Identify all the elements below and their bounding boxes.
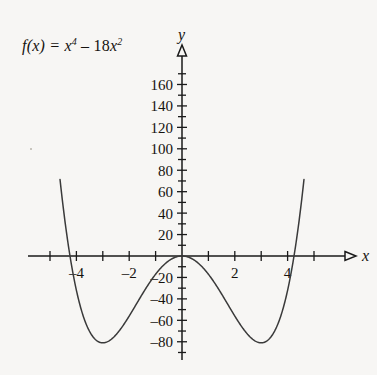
y-tick-label: 160: [151, 77, 174, 93]
equation-operator: –: [77, 37, 94, 54]
function-equation-label: f(x) = x4 – 18x2: [22, 36, 122, 55]
equation-term2-coefficient: 18: [94, 37, 110, 54]
x-axis-group: x: [28, 247, 369, 264]
y-tick-label: 40: [158, 206, 173, 222]
y-tick-label: 80: [158, 163, 173, 179]
y-axis-name-label: y: [176, 26, 186, 44]
x-tick-label: 2: [231, 265, 239, 281]
y-tick-label: 100: [151, 141, 174, 157]
x-tick-label: –2: [121, 265, 137, 281]
y-tick-label: 140: [151, 98, 174, 114]
equation-term2-exponent: 2: [117, 36, 122, 47]
y-axis-arrowhead: [178, 45, 187, 56]
y-axis-tick-labels: –80–60–40–2020406080100120140160: [150, 77, 174, 350]
equation-term1-base: x: [64, 37, 71, 54]
scan-speck: [30, 148, 32, 150]
y-tick-label: 20: [158, 227, 173, 243]
y-tick-label: –80: [150, 334, 174, 350]
y-tick-label: –60: [150, 313, 174, 329]
y-tick-label: –40: [150, 291, 174, 307]
x-axis-name-label: x: [361, 247, 369, 264]
x-axis-arrowhead: [345, 252, 356, 261]
x-tick-label: –4: [68, 265, 85, 281]
y-tick-label: 60: [158, 184, 173, 200]
plot-canvas: x y –4–224 –80–60–40–2020406080100120140…: [0, 0, 377, 375]
x-axis-tick-labels: –4–224: [68, 265, 292, 281]
y-tick-label: 120: [151, 120, 174, 136]
equation-lhs: f(x) =: [22, 37, 64, 54]
function-plot-figure: f(x) = x4 – 18x2 x y –4–224 –80–60–40–20…: [0, 0, 377, 375]
